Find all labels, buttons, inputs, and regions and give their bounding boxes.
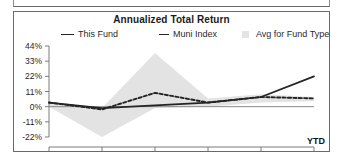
x-axis-tick-label: 2010 [199,152,218,153]
y-axis-tick-label: 11% [26,87,43,97]
annualized-total-return-widget: Annualized Total Return This Fund Muni I… [0,0,341,162]
x-axis-tick-label: 2007 [40,152,59,153]
x-axis-tick-label: 2011 [252,152,271,153]
x-axis-tick-label: 2008 [93,152,112,153]
y-axis-tick-label: 0% [30,102,43,112]
x-axis-tick-label: 2012 [305,152,324,153]
y-axis-tick-label: -11% [23,117,43,127]
y-axis-tick-label: -22% [22,132,42,142]
panel-above-divider [13,0,330,7]
avg-for-fund-type-band [49,53,314,137]
y-axis-tick-label: 22% [25,71,42,81]
ytd-label: YTD [307,136,325,146]
chart-svg: 44%33%22%11%0%-11%-22%200720082009201020… [14,12,331,153]
y-axis-tick-label: 33% [25,56,42,66]
plot-area: 44%33%22%11%0%-11%-22%200720082009201020… [14,12,331,153]
y-axis-tick-label: 44% [25,41,42,51]
chart-panel: Annualized Total Return This Fund Muni I… [13,11,330,152]
x-axis-tick-label: 2009 [146,152,165,153]
